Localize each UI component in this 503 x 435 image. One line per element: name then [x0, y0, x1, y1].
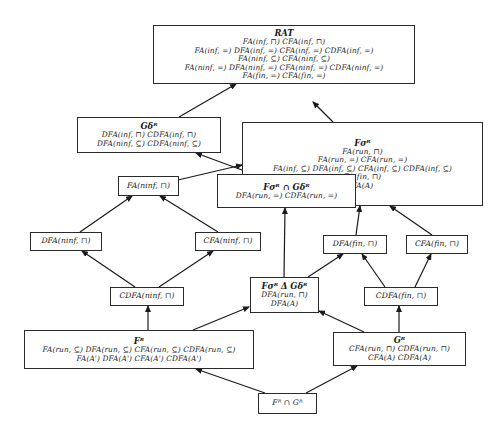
node-dfa-ninf-meet: DFA(ninf, ⊓)	[30, 232, 102, 251]
node-f-sigma-cap-g-delta: Fσᴿ ∩ Gδᴿ DFA(run, =) CDFA(run, =)	[217, 174, 356, 208]
node-line: FA(fin, =) CFA(fin, =)	[243, 72, 326, 81]
edge-gr-to-fdeltag	[319, 311, 364, 332]
node-fa-ninf-meet: FA(ninf, ⊓)	[118, 176, 179, 196]
edge-fdeltag-to-fcapg	[284, 208, 285, 277]
node-cdfa-fin-meet: CDFA(fin, ⊓)	[364, 287, 438, 306]
node-cdfa-ninf-meet: CDFA(ninf, ⊓)	[110, 287, 184, 306]
node-f-r-cap-g-r: Fᴿ ∩ Gᴿ	[258, 393, 317, 414]
edge-dfaninf-to-faninf	[80, 196, 132, 232]
edge-cfafin-to-fsigma	[390, 206, 432, 235]
edge-fr-to-fdeltag	[193, 307, 249, 330]
edge-frcapgr-to-fr	[196, 369, 265, 393]
node-g-r: Gᴿ CFA(run, ⊓) CDFA(run, ⊓) CFA(A) CDFA(…	[333, 332, 466, 366]
node-f-sigma-delta-g-delta: Fσᴿ Δ Gδᴿ DFA(run, ⊓) DFA(A)	[250, 277, 319, 313]
edge-frcapgr-to-gr	[306, 366, 357, 393]
edge-cdfafin-to-cfafin	[415, 254, 431, 287]
node-line: CDFA(fin, ⊓)	[376, 292, 426, 301]
node-line: DFA(ninf, ⊓)	[41, 237, 90, 246]
node-line: DFA(A)	[271, 300, 298, 309]
node-rat: RAT FA(inf, ⊓) CFA(inf, ⊓) FA(inf, =) DF…	[153, 25, 415, 84]
edge-dfafin-to-fsigma	[356, 206, 360, 235]
node-line: FA(ninf, ⊓)	[127, 182, 170, 191]
edge-cdfaninf-to-cfaninf	[159, 251, 213, 287]
node-cfa-fin-meet: CFA(fin, ⊓)	[406, 235, 468, 254]
node-line: DFA(ninf, ⊆) CDFA(ninf, ⊆)	[97, 140, 201, 149]
node-dfa-fin-meet: DFA(fin, ⊓)	[323, 235, 387, 254]
node-line: FA(A') DFA(A') CFA(A') CDFA(A')	[76, 355, 201, 364]
node-line: Fᴿ ∩ Gᴿ	[272, 399, 302, 408]
node-g-delta: Gδᴿ DFA(inf, ⊓) CDFA(inf, ⊓) DFA(ninf, ⊆…	[77, 117, 221, 153]
node-cfa-ninf-meet: CFA(ninf, ⊓)	[195, 232, 261, 251]
node-line: DFA(run, =) CDFA(run, =)	[236, 192, 337, 201]
node-line: CFA(A) CDFA(A)	[368, 354, 431, 363]
edge-cdfafin-to-dfafin	[362, 254, 385, 287]
edge-gdelta-to-rat	[179, 84, 236, 117]
edge-fsigma-to-rat	[313, 102, 333, 122]
edge-cfaninf-to-faninf	[160, 196, 218, 232]
node-line: CFA(ninf, ⊓)	[204, 237, 253, 246]
edge-fdeltag-to-dfafin	[308, 254, 343, 277]
node-line: DFA(fin, ⊓)	[333, 240, 378, 249]
node-line: CFA(fin, ⊓)	[415, 240, 459, 249]
node-line: CDFA(ninf, ⊓)	[119, 292, 174, 301]
node-f-r: Fᴿ FA(run, ⊆) DFA(run, ⊆) CFA(run, ⊆) CD…	[24, 330, 254, 369]
edge-cdfaninf-to-dfaninf	[82, 251, 135, 287]
